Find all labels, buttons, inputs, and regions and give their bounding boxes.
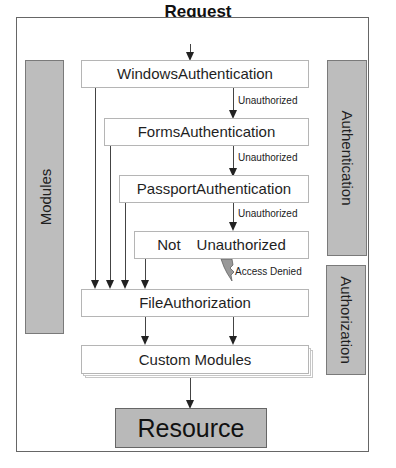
passport-authentication-label: PassportAuthentication [137, 180, 291, 197]
edge-custom-resource [190, 378, 191, 402]
edge-forms-passport [233, 146, 234, 170]
edge-file-custom-right [233, 317, 234, 338]
bypass-line-passport [125, 203, 126, 281]
not-label: Not [157, 236, 180, 253]
authentication-panel: Authentication [327, 60, 367, 256]
unauthorized-label: Unauthorized [197, 236, 286, 253]
bypass-line-windows [95, 88, 96, 281]
custom-modules-label: Custom Modules [139, 351, 252, 368]
authorization-panel: Authorization [326, 265, 366, 375]
arrow-down-icon [106, 280, 114, 289]
file-authorization-node: FileAuthorization [81, 289, 309, 317]
modules-panel: Modules [25, 60, 64, 334]
arrow-down-icon [121, 280, 129, 289]
unauthorized-label-3: Unauthorized [238, 208, 297, 219]
bypass-line-notunauth [145, 259, 146, 281]
forms-authentication-node: FormsAuthentication [104, 118, 309, 146]
edge-windows-forms [233, 88, 234, 112]
resource-node: Resource [115, 408, 267, 448]
windows-authentication-node: WindowsAuthentication [81, 60, 309, 88]
resource-label: Resource [138, 414, 245, 442]
arrow-down-icon [91, 280, 99, 289]
forms-authentication-label: FormsAuthentication [138, 123, 276, 140]
bypass-line-forms [110, 146, 111, 281]
unauthorized-label-2: Unauthorized [238, 152, 297, 163]
unauthorized-label-1: Unauthorized [238, 95, 297, 106]
access-denied-label: Access Denied [235, 266, 302, 277]
custom-modules-node: Custom Modules [81, 345, 309, 374]
edge-file-custom-left [145, 317, 146, 338]
passport-authentication-node: PassportAuthentication [119, 175, 309, 203]
authentication-label: Authentication [339, 110, 356, 205]
arrow-down-icon [141, 280, 149, 289]
arrow-down-icon [141, 336, 149, 345]
modules-label: Modules [36, 169, 53, 226]
authorization-label: Authorization [338, 276, 355, 364]
file-authorization-label: FileAuthorization [139, 294, 251, 311]
arrow-down-icon [229, 336, 237, 345]
not-unauthorized-node: NotUnauthorized [134, 231, 309, 259]
windows-authentication-label: WindowsAuthentication [117, 65, 273, 82]
arrow-down-icon [229, 222, 237, 231]
